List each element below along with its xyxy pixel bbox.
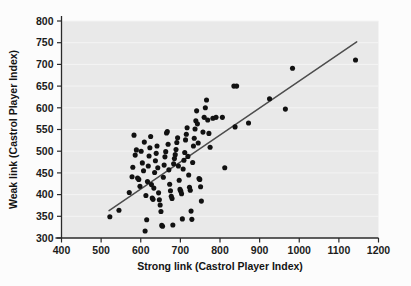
y-tick-label: 750 — [36, 36, 54, 48]
data-point — [166, 167, 171, 172]
data-point — [150, 197, 155, 202]
data-point — [152, 170, 157, 175]
data-point — [186, 173, 191, 178]
data-point — [163, 149, 168, 154]
data-point — [151, 186, 156, 191]
data-point — [194, 108, 199, 113]
data-point — [205, 117, 210, 122]
data-point — [181, 158, 186, 163]
data-point — [127, 190, 132, 195]
data-point — [189, 217, 194, 222]
data-point — [130, 165, 135, 170]
data-point — [143, 229, 148, 234]
y-tick-label: 600 — [36, 102, 54, 114]
x-tick-label: 1000 — [288, 244, 312, 256]
data-point — [161, 175, 166, 180]
data-point — [189, 209, 194, 214]
data-point — [198, 184, 203, 189]
data-point — [353, 58, 358, 63]
data-point — [148, 134, 153, 139]
x-tick-label: 600 — [132, 244, 150, 256]
y-tick-labels: 300350400450500550600650700750800 — [36, 15, 54, 244]
y-tick-label: 350 — [36, 210, 54, 222]
data-point — [154, 143, 159, 148]
data-point — [129, 174, 134, 179]
y-axis-title: Weak link (Castrol Player Index) — [7, 50, 19, 209]
data-point — [154, 151, 159, 156]
x-axis-title: Strong link (Castrol Player Index) — [137, 260, 303, 272]
data-point — [199, 199, 204, 204]
data-point — [141, 168, 146, 173]
data-point — [162, 154, 167, 159]
y-tick-label: 500 — [36, 145, 54, 157]
data-point — [166, 142, 171, 147]
data-point — [290, 66, 295, 71]
data-point — [160, 224, 165, 229]
data-point — [143, 193, 148, 198]
data-point — [136, 177, 141, 182]
data-point — [177, 178, 182, 183]
data-point — [134, 147, 139, 152]
y-tick-label: 700 — [36, 58, 54, 70]
x-tick-label: 800 — [211, 244, 229, 256]
data-point — [267, 96, 272, 101]
x-tick-label: 1200 — [367, 244, 391, 256]
x-tick-label: 500 — [92, 244, 110, 256]
data-point — [222, 165, 227, 170]
data-point — [190, 160, 195, 165]
data-point — [162, 163, 167, 168]
x-tick-label: 400 — [53, 244, 71, 256]
y-tick-label: 400 — [36, 188, 54, 200]
data-point — [206, 131, 211, 136]
data-point — [139, 149, 144, 154]
data-point — [133, 153, 138, 158]
data-point — [197, 177, 202, 182]
data-point — [158, 209, 163, 214]
data-point — [195, 121, 200, 126]
data-point — [116, 208, 121, 213]
data-point — [156, 190, 161, 195]
data-point — [174, 140, 179, 145]
data-point — [147, 153, 152, 158]
x-tick-labels: 400500600700800900100011001200 — [53, 244, 391, 256]
y-tick-label: 650 — [36, 80, 54, 92]
data-point — [283, 107, 288, 112]
data-point — [180, 216, 185, 221]
data-point — [203, 105, 208, 110]
data-point — [191, 143, 196, 148]
y-tick-label: 800 — [36, 15, 54, 27]
scatter-plot-figure: 400500600700800900100011001200 300350400… — [0, 0, 411, 286]
y-tick-label: 550 — [36, 123, 54, 135]
data-point — [234, 84, 239, 89]
plot-canvas: 400500600700800900100011001200 300350400… — [0, 0, 411, 286]
y-tick-label: 300 — [36, 232, 54, 244]
data-point — [158, 202, 163, 207]
data-point — [196, 140, 201, 145]
data-point — [142, 140, 147, 145]
data-point — [246, 120, 251, 125]
x-tick-label: 900 — [251, 244, 269, 256]
data-point — [192, 136, 197, 141]
data-point — [144, 217, 149, 222]
data-point — [208, 145, 213, 150]
data-point — [173, 147, 178, 152]
data-point — [204, 97, 209, 102]
data-point — [185, 154, 190, 159]
data-point — [155, 165, 160, 170]
data-point — [146, 163, 151, 168]
x-tick-label: 1100 — [327, 244, 350, 256]
data-point — [175, 135, 180, 140]
data-point — [233, 124, 238, 129]
data-point — [140, 160, 145, 165]
data-point — [171, 161, 176, 166]
data-point — [107, 214, 112, 219]
y-tick-label: 450 — [36, 167, 54, 179]
x-tick-label: 700 — [172, 244, 190, 256]
data-point — [153, 158, 158, 163]
data-point — [183, 137, 188, 142]
data-point — [168, 188, 173, 193]
data-point — [173, 152, 178, 157]
data-point — [137, 184, 142, 189]
data-point — [165, 129, 170, 134]
data-point — [188, 188, 193, 193]
